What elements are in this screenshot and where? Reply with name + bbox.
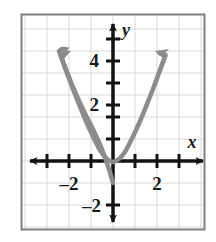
graph-figure: –2 2 4 2 –2 y x: [0, 0, 216, 242]
y-tick-label-2: 2: [90, 94, 100, 115]
x-axis-label: x: [187, 132, 197, 152]
y-tick-label-neg2: –2: [81, 195, 101, 216]
x-tick-label-neg2: –2: [59, 173, 79, 194]
coordinate-plane-svg: –2 2 4 2 –2 y x: [0, 0, 216, 242]
y-tick-label-4: 4: [90, 50, 100, 71]
y-axis-label: y: [120, 20, 131, 40]
x-tick-label-pos2: 2: [152, 173, 162, 194]
